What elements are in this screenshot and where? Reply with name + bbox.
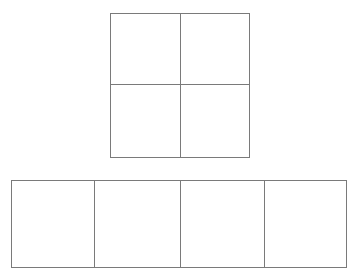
top-grid-2x2 <box>111 14 250 158</box>
diagram-canvas <box>0 0 360 279</box>
bottom-strip-1x4 <box>12 181 347 268</box>
bottom-strip-outline <box>12 181 347 268</box>
